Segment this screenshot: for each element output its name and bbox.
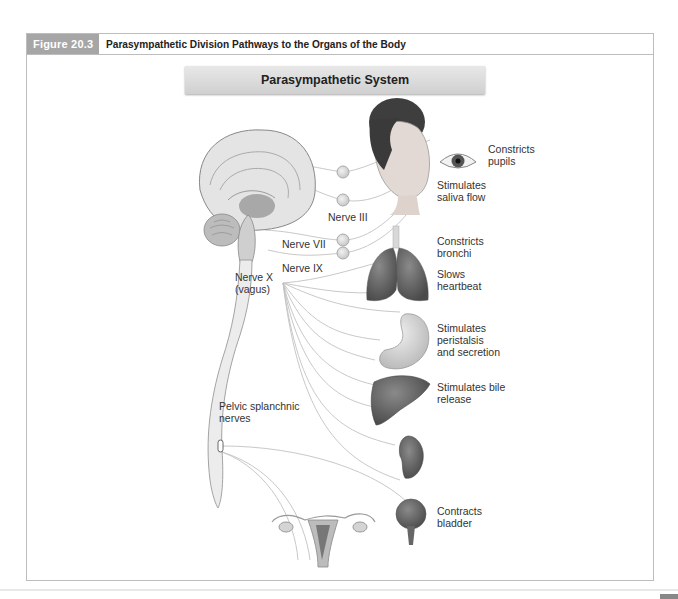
page-divider [0, 589, 678, 591]
diagram-illustration [0, 0, 678, 599]
spinal-cord [208, 260, 252, 508]
label-line: release [437, 393, 505, 405]
label-line: Stimulates bile [437, 381, 505, 393]
label-line: Constricts [488, 143, 535, 155]
label-line: and secretion [437, 346, 500, 358]
label-nerve-ix: Nerve IX [282, 262, 323, 274]
head-illustration [369, 98, 430, 215]
label-stomach: Stimulates peristalsis and secretion [437, 322, 500, 358]
bladder-illustration [396, 499, 426, 545]
label-contracts-bladder: Contracts bladder [437, 505, 482, 529]
label-line: Stimulates [437, 179, 486, 191]
kidney-illustration [399, 436, 423, 478]
label-line: bladder [437, 517, 482, 529]
label-constricts-bronchi: Constricts bronchi [437, 235, 484, 259]
label-slows-heartbeat: Slows heartbeat [437, 268, 481, 292]
label-nerve-vii: Nerve VII [282, 238, 326, 250]
label-line: Nerve X [235, 271, 273, 283]
lungs-illustration [367, 226, 428, 301]
label-line: Slows [437, 268, 481, 280]
stomach-illustration [380, 314, 429, 369]
pelvic-ganglion [218, 440, 223, 452]
liver-illustration [371, 376, 430, 425]
label-nerve-iii: Nerve III [328, 211, 368, 223]
label-line: saliva flow [437, 191, 486, 203]
label-pelvic-splanchnic: Pelvic splanchnic nerves [219, 400, 300, 424]
label-line: (vagus) [235, 283, 273, 295]
label-bile-release: Stimulates bile release [437, 381, 505, 405]
label-line: pupils [488, 155, 535, 167]
label-line: heartbeat [437, 280, 481, 292]
label-nerve-x: Nerve X (vagus) [235, 271, 273, 295]
label-line: bronchi [437, 247, 484, 259]
label-constricts-pupils: Constricts pupils [488, 143, 535, 167]
label-line: Stimulates [437, 322, 500, 334]
page-corner-mark [660, 594, 678, 599]
label-saliva-flow: Stimulates saliva flow [437, 179, 486, 203]
label-line: Constricts [437, 235, 484, 247]
eye-illustration [440, 154, 476, 168]
reproductive-organs-illustration [272, 514, 375, 567]
label-line: nerves [219, 412, 300, 424]
label-line: peristalsis [437, 334, 500, 346]
label-line: Pelvic splanchnic [219, 400, 300, 412]
label-line: Contracts [437, 505, 482, 517]
